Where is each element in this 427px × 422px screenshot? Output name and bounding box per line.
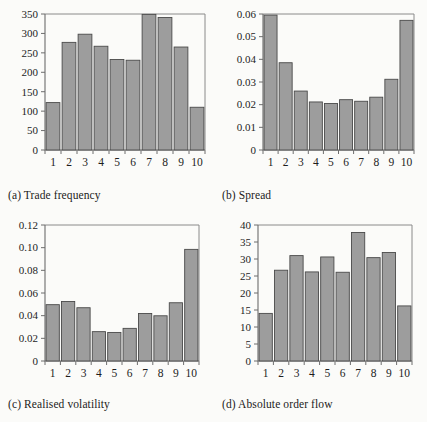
- plot-area-d: 051015202530354012345678910: [214, 211, 427, 389]
- svg-text:20: 20: [240, 287, 252, 299]
- svg-text:10: 10: [399, 367, 411, 379]
- svg-text:2: 2: [278, 367, 284, 379]
- svg-text:10: 10: [240, 321, 252, 333]
- svg-text:30: 30: [240, 253, 252, 265]
- bar-chart-b: 00.010.020.030.040.050.0612345678910: [214, 0, 427, 178]
- svg-text:300: 300: [22, 27, 39, 39]
- svg-text:1: 1: [263, 367, 269, 379]
- svg-text:0.02: 0.02: [19, 332, 38, 344]
- svg-text:6: 6: [130, 156, 136, 168]
- bar-chart-d: 051015202530354012345678910: [214, 211, 427, 389]
- svg-text:100: 100: [22, 105, 39, 117]
- plot-area-a: 05010015020025030035012345678910: [0, 0, 214, 178]
- panel-caption-d: (d) Absolute order flow: [222, 398, 333, 410]
- svg-text:40: 40: [240, 219, 252, 231]
- svg-text:8: 8: [373, 156, 379, 168]
- svg-text:9: 9: [178, 156, 184, 168]
- svg-text:1: 1: [50, 367, 56, 379]
- svg-text:9: 9: [388, 156, 394, 168]
- svg-text:0: 0: [251, 144, 257, 156]
- svg-text:5: 5: [111, 367, 117, 379]
- svg-text:5: 5: [246, 338, 252, 350]
- svg-text:2: 2: [283, 156, 289, 168]
- plot-area-c: 00.020.040.060.080.100.1212345678910: [0, 211, 214, 389]
- chart-panel-a: 05010015020025030035012345678910 (a) Tra…: [0, 0, 214, 211]
- svg-text:0: 0: [246, 355, 252, 367]
- chart-panel-b: 00.010.020.030.040.050.0612345678910 (b)…: [214, 0, 427, 211]
- svg-text:8: 8: [371, 367, 377, 379]
- svg-text:2: 2: [65, 367, 71, 379]
- svg-text:6: 6: [343, 156, 349, 168]
- svg-text:1: 1: [50, 156, 56, 168]
- svg-text:7: 7: [146, 156, 152, 168]
- svg-text:0.10: 0.10: [19, 241, 39, 253]
- svg-text:5: 5: [328, 156, 334, 168]
- svg-text:6: 6: [340, 367, 346, 379]
- svg-text:1: 1: [268, 156, 274, 168]
- svg-text:7: 7: [358, 156, 364, 168]
- svg-text:50: 50: [27, 124, 39, 136]
- svg-text:0.02: 0.02: [237, 98, 256, 110]
- svg-text:9: 9: [173, 367, 179, 379]
- svg-text:4: 4: [96, 367, 102, 379]
- svg-text:10: 10: [186, 367, 198, 379]
- bar-chart-a: 05010015020025030035012345678910: [0, 0, 214, 178]
- svg-text:3: 3: [294, 367, 300, 379]
- svg-text:10: 10: [401, 156, 413, 168]
- svg-text:150: 150: [22, 86, 39, 98]
- svg-text:200: 200: [22, 66, 39, 78]
- svg-text:0.12: 0.12: [19, 219, 38, 231]
- svg-text:10: 10: [191, 156, 203, 168]
- svg-text:0.04: 0.04: [237, 53, 257, 65]
- svg-text:25: 25: [240, 270, 252, 282]
- svg-text:4: 4: [313, 156, 319, 168]
- svg-text:5: 5: [324, 367, 330, 379]
- svg-text:35: 35: [240, 236, 252, 248]
- plot-area-b: 00.010.020.030.040.050.0612345678910: [214, 0, 427, 178]
- svg-text:5: 5: [114, 156, 120, 168]
- svg-text:3: 3: [81, 367, 87, 379]
- svg-text:3: 3: [82, 156, 88, 168]
- svg-text:0.06: 0.06: [237, 8, 257, 20]
- svg-text:250: 250: [22, 47, 39, 59]
- svg-text:0.03: 0.03: [237, 76, 257, 88]
- bar-chart-c: 00.020.040.060.080.100.1212345678910: [0, 211, 214, 389]
- svg-text:0.06: 0.06: [19, 287, 39, 299]
- svg-text:15: 15: [240, 304, 252, 316]
- svg-text:0.05: 0.05: [237, 30, 257, 42]
- svg-text:0: 0: [33, 144, 39, 156]
- svg-text:0.04: 0.04: [19, 309, 39, 321]
- svg-text:0: 0: [33, 355, 39, 367]
- svg-text:7: 7: [142, 367, 148, 379]
- svg-text:9: 9: [386, 367, 392, 379]
- svg-text:8: 8: [162, 156, 168, 168]
- figure-panel-grid: 05010015020025030035012345678910 (a) Tra…: [0, 0, 427, 422]
- svg-text:3: 3: [298, 156, 304, 168]
- panel-caption-c: (c) Realised volatility: [8, 398, 110, 410]
- svg-text:7: 7: [355, 367, 361, 379]
- chart-panel-d: 051015202530354012345678910 (d) Absolute…: [214, 211, 427, 422]
- svg-text:4: 4: [98, 156, 104, 168]
- panel-caption-b: (b) Spread: [222, 189, 271, 201]
- panel-caption-a: (a) Trade frequency: [8, 189, 101, 201]
- svg-text:8: 8: [158, 367, 164, 379]
- svg-text:6: 6: [127, 367, 133, 379]
- svg-text:4: 4: [309, 367, 315, 379]
- svg-text:350: 350: [22, 8, 39, 20]
- svg-text:0.01: 0.01: [237, 121, 256, 133]
- svg-text:0.08: 0.08: [19, 264, 39, 276]
- chart-panel-c: 00.020.040.060.080.100.1212345678910 (c)…: [0, 211, 214, 422]
- svg-text:2: 2: [66, 156, 72, 168]
